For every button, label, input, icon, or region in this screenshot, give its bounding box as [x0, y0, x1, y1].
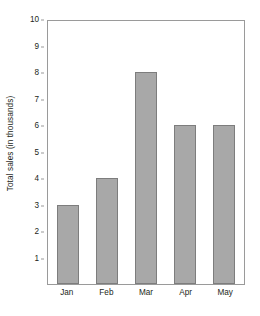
plot-area [47, 20, 245, 285]
bar-slot [57, 21, 79, 284]
y-axis-tick-label: 8 [34, 69, 39, 77]
y-axis-tick-label: 6 [34, 122, 39, 130]
x-axis-tick-labels: JanFebMarAprMay [47, 288, 245, 304]
y-axis-tick-mark [41, 20, 44, 21]
x-axis-tick-label: Mar [135, 288, 157, 298]
y-axis-tick-mark [41, 232, 44, 233]
bar [213, 125, 235, 284]
x-axis-tick-label: Feb [95, 288, 117, 298]
y-axis-title-label: Total sales (in thousands) [7, 95, 16, 190]
y-axis-tick-mark [41, 46, 44, 47]
y-axis-tick-mark [41, 258, 44, 259]
y-axis-tick-label: 10 [30, 16, 39, 24]
bar-slot [213, 21, 235, 284]
y-axis-tick-mark [41, 179, 44, 180]
y-axis-tick-label: 5 [34, 148, 39, 156]
x-axis-tick-label: Apr [175, 288, 197, 298]
y-axis-tick-label: 7 [34, 95, 39, 103]
y-axis-tick-label: 1 [34, 254, 39, 262]
bar-slot [96, 21, 118, 284]
y-axis-title: Total sales (in thousands) [0, 0, 22, 286]
x-axis-tick-label: May [214, 288, 236, 298]
y-axis-tick-label: 3 [34, 201, 39, 209]
y-axis-tick-label: 2 [34, 228, 39, 236]
y-axis-tick-label: 4 [34, 175, 39, 183]
bar-slot [174, 21, 196, 284]
bar [96, 178, 118, 284]
bar-chart-figure: Total sales (in thousands) 10987654321 J… [0, 0, 260, 316]
y-axis-tick-mark [41, 205, 44, 206]
y-axis-tick-labels: 10987654321 [22, 0, 44, 286]
x-axis-tick-label: Jan [56, 288, 78, 298]
bar-slot [135, 21, 157, 284]
y-axis-tick-label: 9 [34, 42, 39, 50]
y-axis-tick-mark [41, 73, 44, 74]
bar [135, 72, 157, 284]
bar [174, 125, 196, 284]
bar [57, 205, 79, 285]
y-axis-tick-mark [41, 99, 44, 100]
bars-layer [48, 21, 244, 284]
y-axis-tick-mark [41, 152, 44, 153]
y-axis-tick-mark [41, 126, 44, 127]
